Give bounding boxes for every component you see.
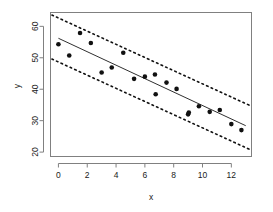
data-point <box>218 108 223 113</box>
data-point <box>197 104 202 109</box>
data-point <box>153 92 158 97</box>
x-axis-tick-label: 6 <box>143 170 148 180</box>
y-axis-tick-label: 20 <box>31 147 41 157</box>
chart-container: 024681012 2030405060 x y <box>0 0 273 212</box>
data-point <box>187 110 192 115</box>
data-point <box>229 122 234 127</box>
data-point <box>143 74 148 79</box>
data-point <box>239 128 244 133</box>
data-point <box>67 53 72 58</box>
data-point <box>174 87 179 92</box>
data-point <box>99 70 104 75</box>
x-axis-tick-label: 2 <box>85 170 90 180</box>
data-point <box>78 31 83 36</box>
data-point <box>56 42 61 47</box>
data-point <box>132 77 137 82</box>
data-point <box>109 65 114 70</box>
x-axis-tick-label: 0 <box>56 170 61 180</box>
y-axis-tick-label: 30 <box>31 116 41 126</box>
y-axis-tick-label: 50 <box>31 53 41 63</box>
data-point <box>89 41 94 46</box>
x-axis-tick-label: 8 <box>171 170 176 180</box>
y-axis-tick-label: 40 <box>31 84 41 94</box>
scatter-plot-regression: 024681012 2030405060 x y <box>0 0 273 212</box>
data-point <box>153 72 158 77</box>
x-axis-tick-label: 10 <box>198 170 208 180</box>
y-axis-tick-label: 60 <box>31 21 41 31</box>
x-axis-tick-label: 4 <box>114 170 119 180</box>
data-point <box>207 110 212 115</box>
plot-background <box>0 0 273 212</box>
data-point <box>121 50 126 55</box>
data-point <box>164 80 169 85</box>
x-axis-tick-label: 12 <box>227 170 237 180</box>
